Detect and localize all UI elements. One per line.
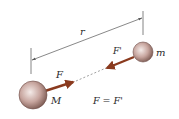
large-mass-label: M	[50, 95, 62, 106]
line-of-action-dashed	[76, 68, 106, 81]
gravitation-diagram: r F F' M m F = F'	[0, 0, 179, 119]
force-arrow-F	[45, 82, 73, 91]
distance-dimension-line	[32, 18, 142, 60]
force-arrow-F-prime	[107, 57, 134, 68]
small-mass-sphere	[133, 42, 153, 62]
force-label-F: F	[55, 69, 64, 80]
small-mass-label: m	[156, 47, 165, 58]
force-equality-equation: F = F'	[92, 95, 123, 106]
large-mass-sphere	[19, 81, 47, 109]
distance-label: r	[80, 26, 86, 37]
force-label-F-prime: F'	[112, 46, 122, 56]
